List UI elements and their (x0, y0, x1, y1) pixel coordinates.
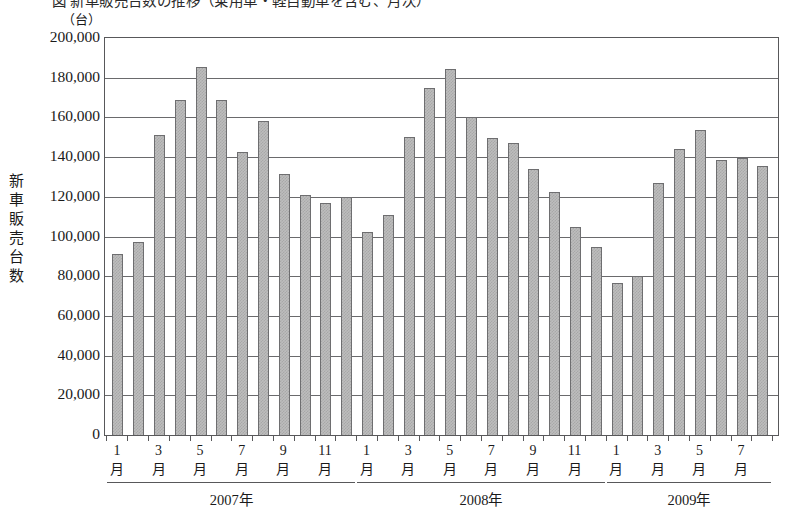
bar (341, 197, 352, 435)
x-label-month-number: 7 (227, 441, 257, 460)
x-label-month-number: 5 (684, 441, 714, 460)
bar (300, 195, 311, 435)
y-tick-label: 180,000 (8, 68, 100, 86)
x-label-month-unit: 月 (268, 460, 298, 479)
x-axis-label: 7月 (476, 441, 506, 479)
bar (528, 169, 539, 435)
bar (674, 149, 685, 435)
x-axis-label: 9月 (268, 441, 298, 479)
bar (237, 152, 248, 435)
x-axis-label: 11月 (560, 441, 590, 479)
y-tick-label: 200,000 (8, 28, 100, 46)
x-label-month-number: 5 (185, 441, 215, 460)
bar (424, 88, 435, 435)
x-axis-label: 11月 (310, 441, 340, 479)
bar (196, 67, 207, 435)
bar (112, 254, 123, 435)
chart-title-clipped: 図 新車販売台数の推移（乗用車・軽自動車を含む、月次） (0, 0, 787, 9)
x-axis-label: 7月 (726, 441, 756, 479)
x-label-month-unit: 月 (102, 460, 132, 479)
x-axis-label: 9月 (518, 441, 548, 479)
x-label-month-unit: 月 (352, 460, 382, 479)
x-label-month-number: 11 (310, 441, 340, 460)
bar (716, 160, 727, 435)
bar (445, 69, 456, 435)
x-axis-label: 1月 (352, 441, 382, 479)
x-axis-label: 5月 (684, 441, 714, 479)
x-label-month-unit: 月 (643, 460, 673, 479)
x-axis-label: 5月 (185, 441, 215, 479)
x-label-month-number: 3 (144, 441, 174, 460)
x-label-month-unit: 月 (185, 460, 215, 479)
bar (279, 174, 290, 435)
chart-title-text: 図 新車販売台数の推移（乗用車・軽自動車を含む、月次） (52, 0, 430, 9)
x-label-month-unit: 月 (601, 460, 631, 479)
x-axis-label: 3月 (643, 441, 673, 479)
x-label-month-unit: 月 (144, 460, 174, 479)
year-group-rule (607, 482, 771, 483)
x-axis-label: 3月 (393, 441, 423, 479)
x-axis-label: 1月 (102, 441, 132, 479)
x-label-month-unit: 月 (435, 460, 465, 479)
bar (570, 227, 581, 435)
bar (175, 100, 186, 435)
y-tick-label: 160,000 (8, 107, 100, 125)
y-tick-label: 100,000 (8, 227, 100, 245)
bar (320, 203, 331, 435)
x-label-month-unit: 月 (476, 460, 506, 479)
bar (549, 192, 560, 435)
bar (216, 100, 227, 435)
x-label-month-number: 7 (476, 441, 506, 460)
y-tick-label: 40,000 (8, 346, 100, 364)
y-tick-label: 60,000 (8, 306, 100, 324)
x-label-month-number: 9 (518, 441, 548, 460)
year-group-label: 2008年 (357, 488, 605, 509)
x-axis-year-groups: 2007年2008年2009年 (104, 482, 779, 513)
x-axis-label: 5月 (435, 441, 465, 479)
bar (133, 242, 144, 435)
year-group-rule (107, 482, 355, 483)
y-tick-label: 140,000 (8, 147, 100, 165)
bar (154, 135, 165, 435)
bar (362, 232, 373, 435)
x-label-month-unit: 月 (518, 460, 548, 479)
plot-area (104, 37, 779, 436)
bar (632, 276, 643, 435)
year-group-label: 2009年 (607, 488, 771, 509)
bar-series (105, 38, 778, 435)
bar (695, 130, 706, 435)
x-label-month-number: 9 (268, 441, 298, 460)
bar (757, 166, 768, 435)
year-group-rule (357, 482, 605, 483)
x-label-month-unit: 月 (684, 460, 714, 479)
x-label-month-number: 3 (643, 441, 673, 460)
bar (404, 137, 415, 435)
bar (466, 117, 477, 435)
x-label-month-number: 1 (102, 441, 132, 460)
x-axis-label: 3月 (144, 441, 174, 479)
bar (653, 183, 664, 435)
x-label-month-unit: 月 (726, 460, 756, 479)
y-tick-label: 80,000 (8, 266, 100, 284)
bar (508, 143, 519, 435)
x-axis-month-labels: 1月3月5月7月9月11月1月3月5月7月9月11月1月3月5月7月 (104, 441, 779, 485)
x-label-month-number: 11 (560, 441, 590, 460)
y-tick-label: 0 (8, 425, 100, 443)
y-tick-label: 120,000 (8, 187, 100, 205)
x-axis-label: 1月 (601, 441, 631, 479)
year-group-label: 2007年 (107, 488, 355, 509)
y-axis-tick-labels: 200,000180,000160,000140,000120,000100,0… (2, 0, 100, 513)
bar (591, 247, 602, 435)
x-label-month-unit: 月 (393, 460, 423, 479)
x-label-month-unit: 月 (227, 460, 257, 479)
x-label-month-unit: 月 (560, 460, 590, 479)
y-tick-label: 20,000 (8, 385, 100, 403)
x-label-month-unit: 月 (310, 460, 340, 479)
bar (487, 138, 498, 435)
x-label-month-number: 7 (726, 441, 756, 460)
x-label-month-number: 1 (601, 441, 631, 460)
bar (383, 215, 394, 435)
x-label-month-number: 1 (352, 441, 382, 460)
x-label-month-number: 5 (435, 441, 465, 460)
x-axis-label: 7月 (227, 441, 257, 479)
